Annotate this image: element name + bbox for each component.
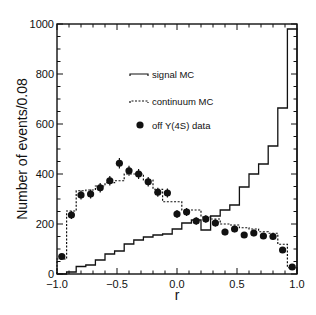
data-point bbox=[183, 208, 190, 215]
data-point bbox=[231, 225, 238, 232]
data-point bbox=[125, 167, 132, 174]
continuum-mc-histogram bbox=[57, 174, 297, 274]
data-point bbox=[87, 190, 94, 197]
x-tick-label: 1.0 bbox=[289, 278, 304, 290]
x-tick-label: 0.5 bbox=[229, 278, 244, 290]
y-tick-label: 800 bbox=[36, 68, 54, 80]
data-point bbox=[77, 191, 84, 198]
y-axis-title: Number of events/0.08 bbox=[14, 78, 30, 220]
data-point bbox=[289, 263, 296, 270]
data-point bbox=[279, 246, 286, 253]
legend-item-continuum: continuum MC bbox=[130, 96, 213, 107]
continuum-mc-step-line bbox=[57, 174, 297, 274]
y-tick-label: 400 bbox=[36, 168, 54, 180]
data-point bbox=[164, 189, 171, 196]
data-point bbox=[212, 219, 219, 226]
x-tick-label: −1.0 bbox=[46, 278, 68, 290]
data-point bbox=[193, 217, 200, 224]
legend-item-data: off Υ(4S) data bbox=[136, 120, 211, 131]
x-tick-label: −0.5 bbox=[106, 278, 128, 290]
data-point bbox=[221, 228, 228, 235]
data-point bbox=[106, 177, 113, 184]
data-point bbox=[269, 233, 276, 240]
data-point bbox=[145, 178, 152, 185]
legend-label-signal: signal MC bbox=[152, 69, 194, 80]
legend-label-continuum: continuum MC bbox=[152, 96, 213, 107]
data-point bbox=[58, 253, 65, 260]
y-tick-label: 1000 bbox=[30, 18, 54, 30]
data-point bbox=[68, 211, 75, 218]
off-resonance-data-points bbox=[58, 158, 296, 271]
data-point bbox=[135, 170, 142, 177]
data-point bbox=[116, 160, 123, 167]
y-tick-label: 600 bbox=[36, 118, 54, 130]
data-point bbox=[260, 232, 267, 239]
solid-line-icon bbox=[130, 74, 148, 76]
data-point bbox=[250, 229, 257, 236]
data-point bbox=[173, 210, 180, 217]
dashed-line-icon bbox=[130, 101, 148, 103]
data-point bbox=[97, 184, 104, 191]
data-point bbox=[202, 215, 209, 222]
legend-label-data: off Υ(4S) data bbox=[152, 120, 211, 131]
x-axis-title: r bbox=[175, 287, 180, 303]
histogram-chart: 02004006008001000 −1.0−0.50.00.51.0 r Nu… bbox=[0, 0, 316, 315]
filled-circle-icon bbox=[136, 121, 143, 128]
data-point bbox=[241, 231, 248, 238]
legend: signal MC continuum MC off Υ(4S) data bbox=[130, 69, 213, 131]
legend-item-signal: signal MC bbox=[130, 69, 194, 80]
y-tick-label: 200 bbox=[36, 218, 54, 230]
y-tick-labels: 02004006008001000 bbox=[30, 18, 54, 280]
data-point bbox=[154, 189, 161, 196]
